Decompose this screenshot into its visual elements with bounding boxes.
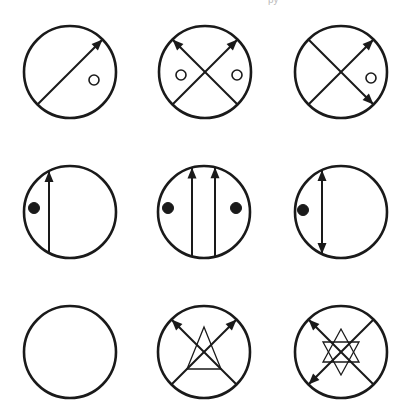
hollow-dot-icon xyxy=(89,75,99,85)
figure-r2c3 xyxy=(295,166,387,258)
hollow-dot-icon xyxy=(232,70,242,80)
figure-r3c1 xyxy=(24,306,116,398)
hexagram-up-triangle-icon xyxy=(323,329,359,362)
figure-r3c2 xyxy=(158,306,250,398)
hollow-dot-icon xyxy=(366,73,376,83)
puzzle-matrix xyxy=(0,0,401,402)
figure-r1c2 xyxy=(159,26,251,118)
figure-r3c3 xyxy=(295,306,387,398)
filled-dot-icon xyxy=(231,203,242,214)
outer-circle xyxy=(24,306,116,398)
filled-dot-icon xyxy=(163,203,174,214)
figure-r1c3 xyxy=(295,26,387,118)
filled-dot-icon xyxy=(29,203,40,214)
figure-r1c1 xyxy=(24,26,116,118)
figure-r2c1 xyxy=(24,166,116,258)
hollow-dot-icon xyxy=(176,70,186,80)
figure-r2c2 xyxy=(158,166,250,258)
filled-dot-icon xyxy=(298,205,309,216)
arrow-line xyxy=(37,39,102,104)
hexagram-down-triangle-icon xyxy=(323,342,359,375)
outer-circle xyxy=(295,166,387,258)
